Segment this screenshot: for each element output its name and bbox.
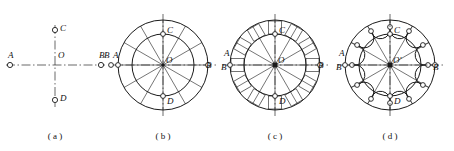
panel-c-point-D — [273, 94, 278, 99]
caption-b: ( b ) — [143, 131, 183, 141]
panel-d-point-C — [388, 32, 393, 37]
panel-b-label-B-right: B — [206, 60, 212, 70]
panel-c-label-D: D — [279, 96, 286, 106]
panel-d-label-B-left: B — [336, 62, 342, 72]
panel-c-label-B-right: B — [318, 60, 324, 70]
panel-d-label-A: A — [339, 48, 345, 58]
panel-c-label-C: C — [279, 25, 285, 35]
panel-c-label-B-left: B — [221, 62, 227, 72]
panel-b — [109, 14, 216, 116]
caption-d: ( d ) — [370, 131, 410, 141]
panel-b-point-C — [161, 32, 166, 37]
panel-c — [222, 14, 328, 116]
panel-b-point-B-left — [109, 63, 114, 68]
panel-a-label-D: D — [60, 93, 67, 103]
panel-d-label-O-prime: O' — [393, 55, 401, 65]
panel-a-point-C — [52, 27, 57, 32]
panel-b-label-C: C — [167, 25, 173, 35]
panel-d-label-D: D — [394, 96, 401, 106]
panel-a-point-B — [98, 62, 103, 67]
panel-d-center-square — [388, 63, 393, 68]
panel-d — [337, 14, 443, 116]
panel-c-label-A: A — [224, 48, 230, 58]
panel-c-center-square — [273, 63, 278, 68]
caption-a: ( a ) — [35, 131, 75, 141]
diagram-svg — [0, 0, 454, 151]
panel-b-label-A: A — [113, 50, 119, 60]
panel-b-center-dot — [161, 63, 164, 66]
panel-c-point-A — [228, 63, 233, 68]
panel-a — [6, 25, 105, 107]
panel-a-point-A — [7, 62, 12, 67]
figure-canvas: A B C D O B A B C D O A B B C D O A B B … — [0, 0, 454, 151]
panel-c-point-C — [273, 32, 278, 37]
panel-a-label-C: C — [60, 23, 66, 33]
caption-c: ( c ) — [255, 131, 295, 141]
panel-d-point-A — [343, 63, 348, 68]
panel-b-label-B-left: B — [104, 50, 110, 60]
panel-d-point-D — [388, 94, 393, 99]
panel-b-point-A — [116, 63, 121, 68]
panel-b-label-O: O — [166, 55, 173, 65]
panel-d-label-C: C — [394, 25, 400, 35]
panel-c-label-O: O — [278, 55, 285, 65]
panel-a-label-O: O — [58, 50, 65, 60]
panel-a-label-A: A — [8, 50, 14, 60]
panel-b-label-D: D — [167, 96, 174, 106]
panel-a-point-D — [52, 97, 57, 102]
panel-d-label-B-right: B — [433, 62, 439, 72]
panel-b-point-D — [161, 94, 166, 99]
